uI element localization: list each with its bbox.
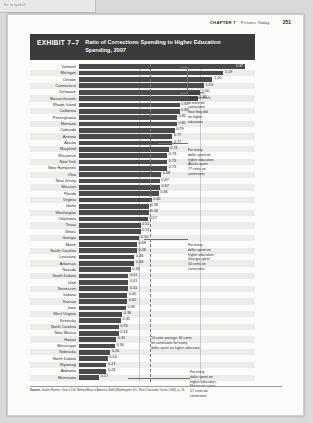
bar-row-label: California <box>30 109 79 113</box>
bar-value-label: 0.48 <box>137 249 146 253</box>
bar-value-label: 0.35 <box>121 318 130 322</box>
bar-value-label: 0.30 <box>115 344 124 348</box>
bar-value-label: 1.37 <box>234 65 243 69</box>
bar <box>79 280 129 285</box>
bar-row-label: Massachusetts <box>30 97 79 101</box>
bar-value-label: 0.17 <box>99 375 108 379</box>
source-text: Jackie Warren, One in 100: Behind Bars i… <box>42 388 185 392</box>
bar-value-label: 0.40 <box>127 299 136 303</box>
bar <box>79 255 135 260</box>
bar <box>79 242 137 247</box>
bar-row-label: Alabama <box>30 369 79 373</box>
exhibit-label: EXHIBIT 7–7 <box>37 39 79 46</box>
average-reference-line <box>150 64 151 382</box>
bar-row-label: Oklahoma <box>30 217 79 221</box>
bar-row-label: New Jersey <box>30 179 79 183</box>
bar-row-label: Texas <box>30 223 79 227</box>
bar <box>79 96 198 101</box>
bar-value-label: 0.26 <box>110 350 119 354</box>
textbook-page: CHAPTER 7 Prisons Today 251 EXHIBIT 7–7 … <box>7 14 304 416</box>
bar-row-label: Nebraska <box>30 350 79 354</box>
bar-value-label: 0.40 <box>127 293 136 297</box>
bar <box>79 325 119 330</box>
bar-row-label: Rhode Island <box>30 103 79 107</box>
bar-row-label: Arkansas <box>30 262 79 266</box>
page-running-header: CHAPTER 7 Prisons Today 251 <box>210 19 291 25</box>
bar-value-label: 0.77 <box>172 134 181 138</box>
bar-row-label: Montana <box>30 122 79 126</box>
bar-value-label: 0.73 <box>167 160 176 164</box>
bar <box>79 299 128 304</box>
bar <box>79 363 107 368</box>
bar-row-label: Alaska <box>30 141 79 145</box>
header-chapter-label: CHAPTER 7 <box>210 20 236 25</box>
source-label: Source: <box>30 388 41 392</box>
bar-value-label: 0.68 <box>161 172 170 176</box>
bar <box>79 223 141 228</box>
bar-row-label: Idaho <box>30 204 79 208</box>
bar-row-label: Iowa <box>30 306 79 310</box>
bar-value-label: 0.66 <box>159 191 168 195</box>
bar-row-label: New Mexico <box>30 331 79 335</box>
bar <box>79 369 107 374</box>
bar <box>79 185 161 190</box>
bar <box>79 286 129 291</box>
bar-row-label: Illinois <box>30 230 79 234</box>
bar <box>79 331 119 336</box>
bar <box>79 147 169 152</box>
bar <box>79 179 161 184</box>
bar-row-label: Washington <box>30 211 79 215</box>
bar-value-label: 0.79 <box>175 128 184 132</box>
bar-value-label: 0.51 <box>141 229 150 233</box>
scan-note-text: Fix to eyeball <box>0 0 95 7</box>
bar <box>79 204 150 209</box>
bar <box>79 64 246 69</box>
bar-value-label: 1.10 <box>212 77 221 81</box>
bar-value-label: 0.41 <box>128 274 137 278</box>
bar-row-label: Pennsylvania <box>30 116 79 120</box>
bar-row-label: Maryland <box>30 147 79 151</box>
bar-row-label: Wisconsin <box>30 154 79 158</box>
bar <box>79 122 178 127</box>
bar-value-label: 0.74 <box>169 147 178 151</box>
bar <box>79 153 168 158</box>
bar-value-label: 0.36 <box>122 312 131 316</box>
leader-bracket-five-states <box>187 67 188 92</box>
bar-row-label: New York <box>30 160 79 164</box>
bar <box>79 77 213 82</box>
leader-line-alaska <box>158 143 188 144</box>
bar-row-label: Tennessee <box>30 287 79 291</box>
bar-row-label: Louisiana <box>30 255 79 259</box>
bar-row-label: South Carolina <box>30 249 79 253</box>
bar <box>79 267 131 272</box>
bar-row-label: Connecticut <box>30 84 79 88</box>
bar-value-label: 0.39 <box>126 306 135 310</box>
bar <box>79 375 100 380</box>
bar-row-label: North Dakota <box>30 357 79 361</box>
bar <box>79 350 111 355</box>
bar-row-label: New Hampshire <box>30 166 79 170</box>
annotation-minnesota: For every dollar spent on higher educati… <box>190 370 236 399</box>
bar <box>79 236 140 241</box>
header-chapter-title: Prisons Today <box>241 20 270 25</box>
bar <box>79 160 168 165</box>
bar <box>79 115 178 120</box>
bar-value-label: 0.33 <box>119 331 128 335</box>
bar <box>79 109 180 114</box>
bar-row-label: Oregon <box>30 78 79 82</box>
bar-row-label: Wyoming <box>30 363 79 367</box>
bar-value-label: 0.41 <box>128 280 137 284</box>
bar-row-label: Ohio <box>30 173 79 177</box>
annotation-five-states: Five states spent as much or more on cor… <box>188 91 228 124</box>
bar-value-label: 0.81 <box>177 115 186 119</box>
bar-row-label: West Virginia <box>30 312 79 316</box>
bar-value-label: 0.67 <box>160 185 169 189</box>
bar <box>79 261 135 266</box>
bar-value-label: 1.03 <box>204 84 213 88</box>
bar-value-label: 1.19 <box>223 71 232 75</box>
bar-value-label: 0.67 <box>160 179 169 183</box>
bar <box>79 248 137 253</box>
bar-row-label: Minnesota <box>30 376 79 380</box>
bar <box>79 166 168 171</box>
bar <box>79 83 204 88</box>
